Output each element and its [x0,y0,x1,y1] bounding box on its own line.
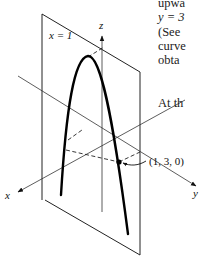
text-line-2: y = 3 [158,10,184,25]
point-marker [116,159,121,164]
text-paragraph-2: At th [158,96,183,111]
z-axis-label: z [99,20,103,31]
x-axis [18,100,185,192]
text-line-1: upwa [158,0,185,11]
plane-label: x = 1 [49,30,72,41]
x-axis-label: x [5,190,10,201]
y-axis-label: y [193,188,198,199]
label-pointer-arrow [123,161,146,165]
text-line-3: (See [158,25,180,40]
parabola-curve [61,56,128,234]
text-line-4: curve [158,39,186,54]
text-line-5: obta [158,53,180,68]
y-axis [18,76,196,186]
point-label: (1, 3, 0) [149,156,184,167]
